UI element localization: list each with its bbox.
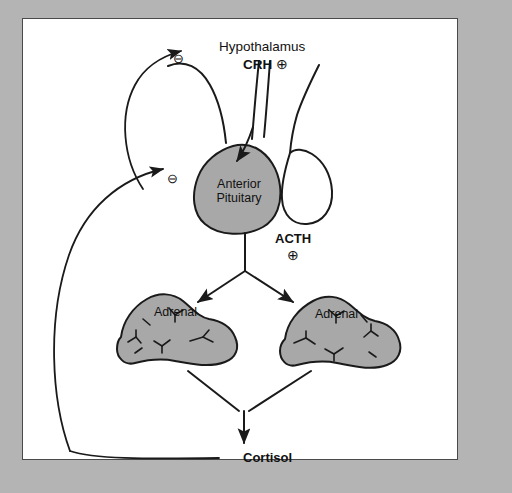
label-adrenal-left: Adrenal (154, 305, 197, 319)
label-anterior-pituitary-line2: Pituitary (200, 191, 278, 205)
figure-root: Hypothalamus CRH ⊕ Anterior Pituitary AC… (0, 0, 512, 493)
feedback-loop-to-hypothalamus (125, 51, 181, 189)
hypothalamus-outline (168, 63, 319, 153)
pituitary-stalk (252, 61, 270, 139)
label-acth: ACTH ⊕ (275, 232, 311, 263)
label-anterior-pituitary-line1: Anterior (200, 177, 278, 191)
cortisol-feedback-origin (70, 451, 219, 458)
feedback-minus-icon-pituitary: ⊖ (167, 171, 178, 186)
label-crh: CRH ⊕ (243, 57, 288, 73)
label-acth-text: ACTH (275, 231, 311, 246)
crh-plus-icon: ⊕ (276, 56, 288, 72)
posterior-pituitary-shape (282, 150, 332, 224)
hpa-axis-diagram (23, 19, 459, 461)
label-hypothalamus: Hypothalamus (219, 39, 305, 54)
label-crh-text: CRH (243, 57, 272, 72)
diagram-panel: Hypothalamus CRH ⊕ Anterior Pituitary AC… (22, 18, 458, 460)
feedback-minus-icon-hypothalamus: ⊖ (173, 51, 184, 66)
label-anterior-pituitary: Anterior Pituitary (200, 177, 278, 205)
label-adrenal-right: Adrenal (315, 307, 358, 321)
label-cortisol: Cortisol (243, 451, 292, 466)
acth-plus-icon: ⊕ (275, 248, 311, 264)
cortisol-arrows (188, 371, 311, 443)
